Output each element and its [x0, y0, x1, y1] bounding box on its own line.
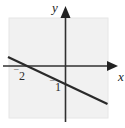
graph-canvas — [0, 0, 125, 128]
tick-label-negative-1: ¯1 — [50, 80, 61, 93]
x-axis-label: x — [118, 70, 124, 83]
tick-value-2: 2 — [19, 69, 25, 83]
x-axis-arrowhead — [107, 61, 118, 71]
graph-figure: y x ¯2 ¯1 — [0, 0, 125, 128]
tick-label-negative-2: ¯2 — [14, 69, 25, 82]
negative-sign-glyph: ¯ — [50, 79, 55, 89]
negative-sign-glyph: ¯ — [14, 68, 19, 78]
tick-value-1: 1 — [55, 80, 61, 94]
y-axis-label: y — [52, 1, 58, 14]
y-axis-arrowhead — [61, 6, 71, 18]
